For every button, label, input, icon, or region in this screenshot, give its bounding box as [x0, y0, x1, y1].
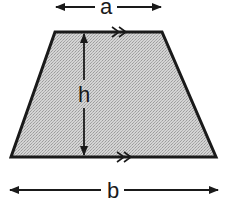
- top-base-dimension: a: [56, 0, 161, 19]
- bottom-base-label: b: [107, 178, 119, 200]
- trapezoid-shape: [11, 32, 216, 157]
- height-label: h: [78, 82, 90, 107]
- top-base-label: a: [100, 0, 113, 19]
- trapezoid-diagram: h a b: [0, 0, 225, 200]
- bottom-base-dimension: b: [10, 178, 218, 200]
